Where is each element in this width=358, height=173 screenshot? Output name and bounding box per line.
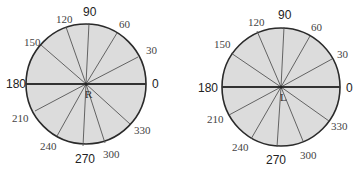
degree-label: 0 — [346, 81, 353, 95]
degree-label: 240 — [40, 140, 57, 152]
degree-label: 30 — [337, 48, 349, 60]
degree-label: 60 — [119, 18, 131, 30]
degree-label: 90 — [83, 5, 97, 19]
degree-label: 60 — [311, 21, 323, 33]
degree-label: 0 — [152, 77, 159, 91]
degree-label: 210 — [12, 112, 29, 124]
degree-label: 150 — [214, 38, 231, 50]
degree-label: 300 — [300, 149, 317, 161]
eye-label: L — [280, 91, 287, 103]
degree-label: 240 — [232, 141, 249, 153]
degree-label: 270 — [75, 152, 95, 166]
degree-label: 150 — [24, 36, 41, 48]
degree-label: 180 — [198, 81, 218, 95]
right-eye-diagram: 0306090120150180210240270300330R — [6, 5, 159, 166]
degree-label: 180 — [6, 77, 26, 91]
center-dot — [279, 85, 282, 88]
degree-label: 90 — [278, 8, 292, 22]
left-eye-diagram: 0306090120150180210240270300330L — [198, 8, 353, 167]
degree-label: 330 — [331, 120, 348, 132]
degree-label: 330 — [134, 124, 151, 136]
degree-label: 270 — [266, 153, 286, 167]
axis-charts: 0306090120150180210240270300330R03060901… — [0, 0, 358, 173]
degree-label: 120 — [248, 16, 265, 28]
degree-label: 210 — [207, 113, 224, 125]
center-dot — [84, 82, 87, 85]
degree-label: 30 — [146, 44, 158, 56]
eye-label: R — [85, 88, 93, 100]
degree-label: 120 — [56, 13, 73, 25]
degree-label: 300 — [103, 148, 120, 160]
